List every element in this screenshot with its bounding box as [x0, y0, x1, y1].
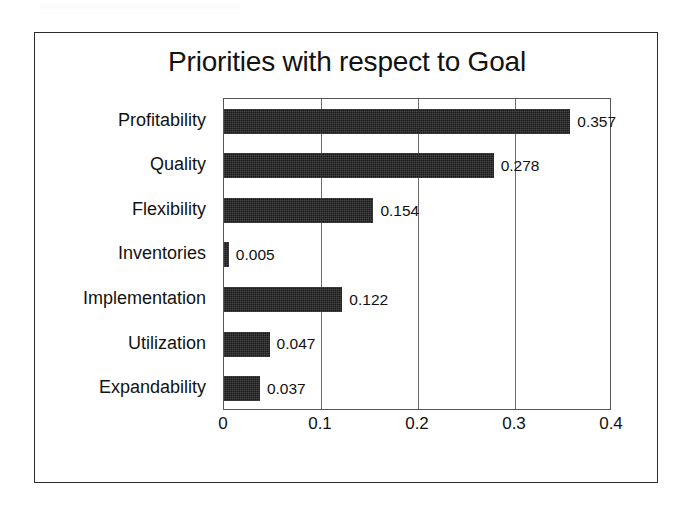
bar-row: 0.122: [224, 277, 610, 322]
x-tick-label: 0.1: [308, 414, 332, 434]
x-axis-tick-labels: 00.10.20.30.4: [223, 414, 611, 442]
category-label-utilization: Utilization: [35, 321, 215, 366]
bar[interactable]: [224, 242, 229, 267]
category-label-inventories: Inventories: [35, 232, 215, 277]
x-tick-label: 0: [218, 414, 227, 434]
bar-value-label: 0.357: [577, 114, 616, 130]
bar-row: 0.357: [224, 99, 610, 144]
bar[interactable]: [224, 153, 494, 178]
x-tick-label: 0.2: [405, 414, 429, 434]
bar-value-label: 0.005: [236, 247, 275, 263]
category-label-expandability: Expandability: [35, 365, 215, 410]
bar[interactable]: [224, 376, 260, 401]
x-tick-label: 0.3: [502, 414, 526, 434]
plot-wrapper: ProfitabilityQualityFlexibilityInventori…: [35, 33, 659, 484]
bar-value-label: 0.154: [380, 203, 419, 219]
bar-row: 0.005: [224, 233, 610, 278]
bar[interactable]: [224, 198, 373, 223]
bar-row: 0.154: [224, 188, 610, 233]
category-label-flexibility: Flexibility: [35, 187, 215, 232]
x-tick-label: 0.4: [599, 414, 623, 434]
bar-value-label: 0.037: [267, 381, 306, 397]
bar-value-label: 0.047: [277, 336, 316, 352]
bar[interactable]: [224, 332, 270, 357]
bar-row: 0.278: [224, 144, 610, 189]
category-label-quality: Quality: [35, 143, 215, 188]
bar-row: 0.037: [224, 366, 610, 411]
plot-area: 0.3570.2780.1540.0050.1220.0470.037: [223, 98, 611, 410]
scan-artifact: [40, 4, 240, 9]
bar[interactable]: [224, 287, 342, 312]
category-label-implementation: Implementation: [35, 276, 215, 321]
category-axis-labels: ProfitabilityQualityFlexibilityInventori…: [35, 98, 215, 410]
bar-row: 0.047: [224, 322, 610, 367]
scanned-page-background: Priorities with respect to Goal Profitab…: [0, 0, 684, 510]
bar[interactable]: [224, 109, 570, 134]
bar-value-label: 0.122: [349, 292, 388, 308]
bar-value-label: 0.278: [501, 158, 540, 174]
bar-series: 0.3570.2780.1540.0050.1220.0470.037: [224, 99, 610, 409]
chart-frame: Priorities with respect to Goal Profitab…: [34, 32, 658, 483]
category-label-profitability: Profitability: [35, 98, 215, 143]
